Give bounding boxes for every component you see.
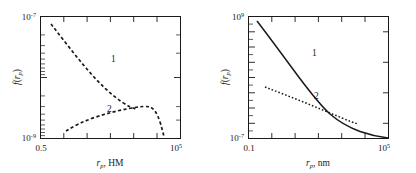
x-tick-label-right-right: 105 — [378, 142, 390, 153]
y-axis-ticks-left — [41, 17, 48, 136]
x-axis-ticks-right — [272, 17, 365, 139]
y-tick-label-top-right: 109 — [232, 11, 244, 22]
y-axis-title-right: f(rp) — [220, 69, 231, 85]
curve-2-left — [66, 106, 164, 136]
curve-1-right — [257, 21, 388, 138]
x-tick-label-left-right: 0.1 — [243, 143, 254, 153]
y-tick-label-top-left: 10-7 — [22, 11, 36, 22]
chart-panel-left: 1 2 10-7 10-9 0.5 105 rp, HM f(rp) — [0, 0, 208, 173]
y-axis-right-ticks-right-panel — [383, 32, 389, 124]
figure-container: 1 2 10-7 10-9 0.5 105 rp, HM f(rp) — [0, 0, 416, 173]
plot-frame-left — [41, 17, 181, 139]
plot-frame-right — [249, 17, 389, 139]
x-axis-title-right: rp, nm — [306, 158, 330, 169]
x-axis-ticks-left — [64, 17, 157, 139]
y-axis-ticks-right — [249, 17, 256, 139]
y-axis-right-ticks-left-panel — [174, 35, 181, 120]
x-tick-label-right-left: 105 — [170, 142, 182, 153]
x-axis-title-left: rp, HM — [97, 158, 125, 169]
y-tick-label-bottom-right: 10-7 — [230, 132, 244, 143]
curve-label-2-right: 2 — [314, 91, 319, 101]
curve-1-left — [51, 24, 136, 109]
y-axis-title-left: f(rp) — [12, 69, 23, 85]
y-tick-label-bottom-left: 10-9 — [22, 132, 36, 143]
curve-label-1-right: 1 — [312, 48, 317, 58]
curve-label-1-left: 1 — [111, 54, 116, 64]
curve-label-2-left: 2 — [107, 104, 112, 114]
chart-panel-right: 1 2 109 10-7 0.1 105 rp, nm f(rp) — [208, 0, 416, 173]
x-tick-label-left-left: 0.5 — [35, 143, 47, 153]
